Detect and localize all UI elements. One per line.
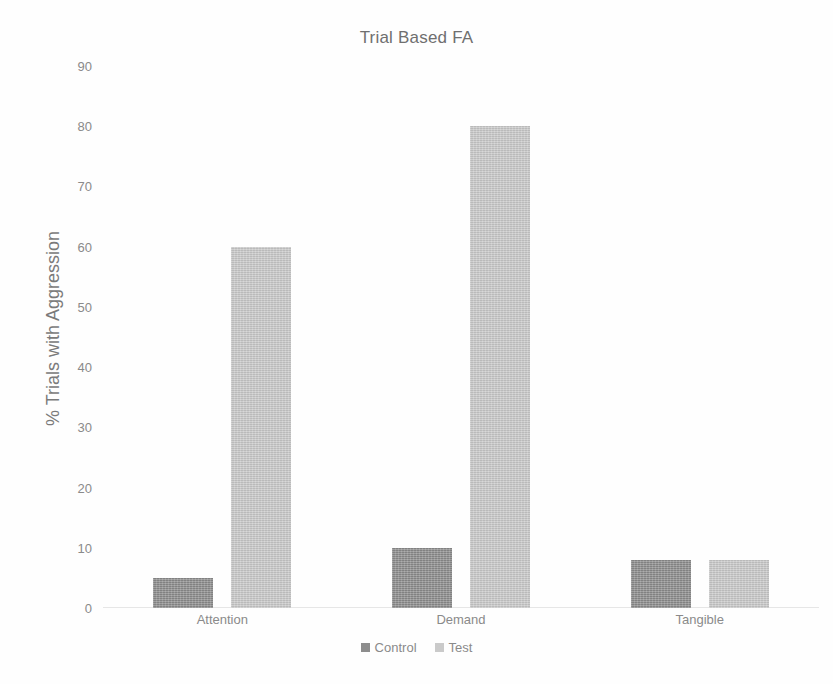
y-tick-label: 10 [78, 540, 92, 555]
legend-label: Control [375, 640, 417, 655]
bar-group [392, 66, 530, 608]
y-axis-title: % Trials with Aggression [43, 179, 64, 479]
y-tick-label: 20 [78, 480, 92, 495]
y-tick-label: 40 [78, 360, 92, 375]
bar-test-tangible[interactable] [709, 560, 769, 608]
y-tick-label: 70 [78, 179, 92, 194]
x-tick-label-attention: Attention [122, 612, 322, 627]
legend-label: Test [449, 640, 473, 655]
y-tick-label: 0 [85, 601, 92, 616]
x-tick-label-demand: Demand [361, 612, 561, 627]
chart-container: Trial Based FA % Trials with Aggression … [0, 0, 833, 684]
bar-control-attention[interactable] [153, 578, 213, 608]
bar-group [631, 66, 769, 608]
plot-area: 9080706050403020100 [103, 66, 819, 608]
bar-control-demand[interactable] [392, 548, 452, 608]
bar-group [153, 66, 291, 608]
legend-swatch-control-icon [361, 643, 370, 652]
y-tick-label: 90 [78, 59, 92, 74]
legend-entry-test[interactable]: Test [435, 640, 473, 655]
y-tick-label: 80 [78, 119, 92, 134]
chart-title: Trial Based FA [0, 28, 833, 48]
bar-control-tangible[interactable] [631, 560, 691, 608]
legend-entry-control[interactable]: Control [361, 640, 417, 655]
legend-swatch-test-icon [435, 643, 444, 652]
bar-test-attention[interactable] [231, 247, 291, 608]
y-tick-label: 30 [78, 420, 92, 435]
bar-test-demand[interactable] [470, 126, 530, 608]
y-tick-label: 50 [78, 299, 92, 314]
y-tick-label: 60 [78, 239, 92, 254]
x-tick-label-tangible: Tangible [600, 612, 800, 627]
chart-legend: ControlTest [0, 640, 833, 655]
